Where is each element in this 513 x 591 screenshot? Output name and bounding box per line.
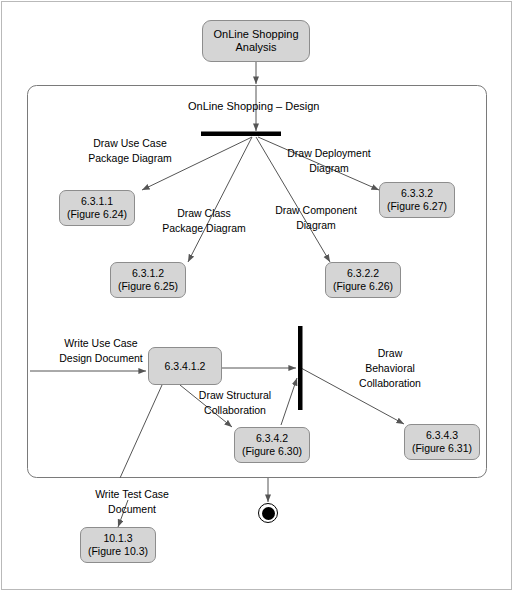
start-node-line1: OnLine Shopping (213, 28, 298, 41)
node-id-label: 6.3.4.3 (426, 429, 458, 442)
node-figure-label: (Figure 6.24) (67, 208, 127, 221)
node-6-3-4-3[interactable]: 6.3.4.3 (Figure 6.31) (404, 424, 480, 460)
edge-label-line1: Write Test Case (73, 487, 191, 502)
node-6-3-2-2[interactable]: 6.3.2.2 (Figure 6.26) (325, 262, 401, 298)
node-figure-label: (Figure 10.3) (88, 545, 148, 558)
activity-diagram-canvas: OnLine Shopping Analysis OnLine Shopping… (0, 0, 513, 591)
edge-label-line1: Draw Use Case (60, 136, 200, 151)
edge-label-line2: Package Diagram (144, 221, 264, 236)
edge-label-write-use-case-design-document: Write Use Case Design Document (42, 336, 160, 366)
start-node-online-shopping-analysis[interactable]: OnLine Shopping Analysis (202, 20, 310, 62)
edge-label-line2: Diagram (256, 218, 376, 233)
node-6-3-1-2[interactable]: 6.3.1.2 (Figure 6.25) (110, 262, 186, 298)
edge-label-line2: Package Diagram (60, 151, 200, 166)
node-id-label: 6.3.4.1.2 (165, 360, 206, 373)
fork-bar-horizontal (201, 132, 281, 137)
edge-label-line2: Design Document (42, 351, 160, 366)
node-id-label: 6.3.4.2 (256, 432, 288, 445)
node-figure-label: (Figure 6.27) (387, 200, 447, 213)
node-10-1-3[interactable]: 10.1.3 (Figure 10.3) (80, 527, 156, 563)
edge-label-draw-structural-collaboration: Draw Structural Collaboration (176, 388, 294, 418)
node-6-3-4-2[interactable]: 6.3.4.2 (Figure 6.30) (234, 427, 310, 463)
edge-label-write-test-case-document: Write Test Case Document (73, 487, 191, 517)
edge-label-draw-use-case-package-diagram: Draw Use Case Package Diagram (60, 136, 200, 166)
node-figure-label: (Figure 6.25) (118, 280, 178, 293)
edge-label-line1: Draw Component (256, 203, 376, 218)
node-id-label: 10.1.3 (103, 532, 132, 545)
node-id-label: 6.3.1.1 (81, 195, 113, 208)
node-id-label: 6.3.3.2 (401, 187, 433, 200)
edge-label-line2: Document (73, 502, 191, 517)
edge-label-line2: Collaboration (176, 403, 294, 418)
edge-label-draw-component-diagram: Draw Component Diagram (256, 203, 376, 233)
node-6-3-4-1-2[interactable]: 6.3.4.1.2 (148, 347, 222, 385)
final-state-node (258, 503, 278, 523)
node-6-3-1-1[interactable]: 6.3.1.1 (Figure 6.24) (59, 190, 135, 226)
edge-label-line1: Write Use Case (42, 336, 160, 351)
edge-label-line3: Collaboration (336, 376, 444, 391)
edge-63412-to-1013 (120, 385, 162, 478)
node-id-label: 6.3.1.2 (132, 267, 164, 280)
node-id-label: 6.3.2.2 (347, 267, 379, 280)
node-figure-label: (Figure 6.30) (242, 445, 302, 458)
edge-label-line1: Draw Class (144, 206, 264, 221)
node-figure-label: (Figure 6.26) (333, 280, 393, 293)
edge-label-line1: Draw Structural (176, 388, 294, 403)
fork-bar-vertical (298, 326, 303, 410)
edge-label-line1: Draw (336, 346, 444, 361)
start-node-line2: Analysis (236, 41, 277, 54)
edge-label-line2: Behavioral (336, 361, 444, 376)
edge-label-draw-class-package-diagram: Draw Class Package Diagram (144, 206, 264, 236)
edge-label-draw-behavioral-collaboration: Draw Behavioral Collaboration (336, 346, 444, 391)
frame-title: OnLine Shopping – Design (188, 100, 319, 112)
edge-label-line1: Draw Deployment (268, 146, 390, 161)
final-state-inner (262, 507, 275, 520)
edge-label-line2: Diagram (268, 161, 390, 176)
node-6-3-3-2[interactable]: 6.3.3.2 (Figure 6.27) (379, 182, 455, 218)
node-figure-label: (Figure 6.31) (412, 442, 472, 455)
edge-label-draw-deployment-diagram: Draw Deployment Diagram (268, 146, 390, 176)
